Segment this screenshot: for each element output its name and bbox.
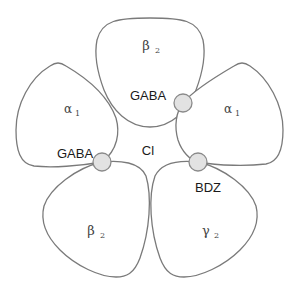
gaba-site-2-label: GABA xyxy=(57,146,93,161)
gaba-binding-site-2 xyxy=(93,153,111,171)
subunit-upper-left-subscript: 1 xyxy=(75,109,80,118)
bdz-site-label: BDZ xyxy=(195,180,221,195)
subunit-upper-right-subscript: 1 xyxy=(235,109,240,118)
subunit-lower-right: γ 2 xyxy=(151,161,257,277)
chloride-channel-label: Cl xyxy=(142,143,154,158)
subunit-lower-left-symbol: β xyxy=(87,223,95,238)
subunit-lower-right-symbol: γ xyxy=(202,223,210,238)
subunit-upper-right-symbol: α xyxy=(224,102,232,116)
gaba-site-1-label: GABA xyxy=(130,88,166,103)
subunit-lower-right-subscript: 2 xyxy=(214,231,219,240)
subunit-top-symbol: β xyxy=(142,38,150,53)
bdz-binding-site xyxy=(189,153,207,171)
subunit-lower-left-subscript: 2 xyxy=(100,231,105,240)
subunit-lower-left: β 2 xyxy=(43,161,150,277)
subunit-upper-left-symbol: α xyxy=(64,102,72,116)
gaba-binding-site-1 xyxy=(174,94,192,112)
gabaa-receptor-diagram: β 2 α 1 α 1 β 2 γ 2 GABA GABA BDZ Cl xyxy=(0,0,297,284)
subunit-top-subscript: 2 xyxy=(155,46,160,55)
